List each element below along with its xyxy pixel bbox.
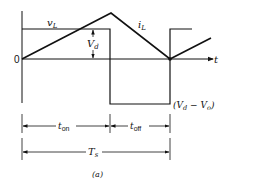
- vL-label: vL: [47, 17, 58, 30]
- origin-label: 0: [14, 54, 20, 65]
- iL-label: iL: [138, 19, 146, 32]
- time-axis-label: t: [214, 54, 219, 65]
- inductor-waveform-diagram: t 0 vL iL Vd (Vd − Vo) ton toff Ts: [0, 0, 265, 181]
- figure-caption: (a): [92, 170, 103, 179]
- low-level-label: (Vd − Vo): [173, 100, 215, 112]
- iL-valley-point: [168, 57, 172, 61]
- vL-waveform: [22, 29, 192, 104]
